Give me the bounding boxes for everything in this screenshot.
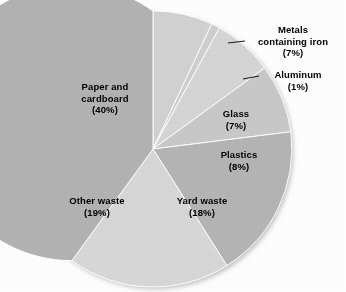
- slice-label-metals-containing-iron: Metals containing iron (7%): [243, 24, 343, 59]
- slice-label-line2: containing iron: [258, 36, 328, 47]
- slice-label-line1: Glass: [223, 108, 249, 119]
- slice-percent: (8%): [196, 161, 282, 173]
- slice-percent: (19%): [42, 207, 152, 219]
- slice-percent: (7%): [196, 120, 276, 132]
- slice-label-line2: cardboard: [81, 93, 128, 104]
- slice-percent: (7%): [243, 47, 343, 59]
- slice-label-line1: Yard waste: [177, 195, 228, 206]
- slice-label-yard-waste: Yard waste (18%): [152, 195, 252, 218]
- pie-chart-figure: Paper and cardboard (40%) Other waste (1…: [0, 0, 346, 292]
- slice-label-line1: Other waste: [69, 195, 124, 206]
- slice-percent: (1%): [258, 81, 338, 93]
- slice-label-aluminum: Aluminum (1%): [258, 69, 338, 92]
- slice-percent: (18%): [152, 207, 252, 219]
- slice-label-line1: Aluminum: [274, 69, 321, 80]
- slice-percent: (40%): [53, 104, 157, 116]
- slice-label-line1: Metals: [278, 24, 308, 35]
- slice-label-glass: Glass (7%): [196, 108, 276, 131]
- slice-label-other-waste: Other waste (19%): [42, 195, 152, 218]
- slice-label-line1: Plastics: [221, 149, 258, 160]
- slice-label-line1: Paper and: [82, 81, 129, 92]
- slice-label-paper-and-cardboard: Paper and cardboard (40%): [53, 81, 157, 116]
- slice-label-plastics: Plastics (8%): [196, 149, 282, 172]
